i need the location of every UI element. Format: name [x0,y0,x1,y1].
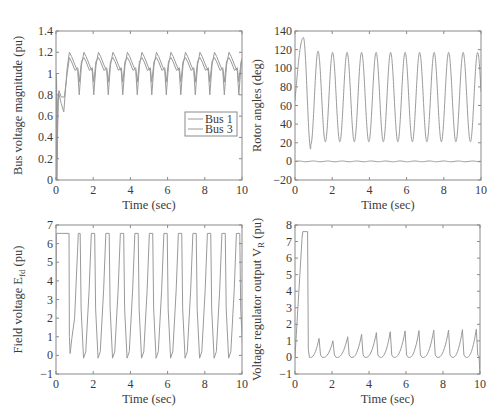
x-tick-label: 10 [236,377,248,391]
y-tick-label: 1 [47,67,53,81]
y-tick-label: 0.4 [38,130,53,144]
x-tick-label: 2 [329,183,335,197]
y-tick-label: 5 [47,255,53,269]
plot-area [295,38,481,162]
x-tick-label: 2 [329,377,335,391]
y-tick-label: 3 [47,293,53,307]
y-tick-label: 0.8 [38,88,53,102]
y-tick-label: 3 [286,301,292,315]
y-axis-label: Bus voltage magnitude (pu) [11,36,25,175]
x-tick-label: 0 [53,183,59,197]
x-tick-label: 8 [441,183,447,197]
y-tick-label: 0 [47,173,53,187]
y-tick-label: 2 [286,317,292,331]
y-tick-label: 0.2 [38,152,53,166]
y-tick-label: 120 [274,43,292,57]
subplot-field-voltage: 0246810−101234567Time (sec)Field voltage… [11,218,254,406]
x-tick-label: 10 [236,183,248,197]
x-tick-label: 6 [165,183,171,197]
x-tick-label: 0 [292,183,298,197]
y-tick-label: 2 [47,311,53,325]
plot-area [56,233,254,358]
field-voltage-trace [56,233,254,358]
subplot-rotor-angles: 0246810−20020406080100120140Time (sec)Ro… [250,24,487,212]
y-tick-label: 4 [286,284,292,298]
y-tick-label: 80 [280,80,292,94]
subplot-regulator-output: 0246810−1012345678Time (sec)Voltage regu… [250,218,486,406]
x-tick-label: 0 [292,377,298,391]
y-tick-label: 7 [47,218,53,232]
axes-box [295,225,480,374]
y-tick-label: 8 [286,218,292,232]
x-tick-label: 6 [404,183,410,197]
x-tick-label: 2 [90,377,96,391]
regulator-output-trace [295,232,480,374]
y-tick-label: 1.2 [38,45,53,59]
y-tick-label: 1 [286,334,292,348]
x-tick-label: 4 [127,377,133,391]
x-tick-label: 10 [475,183,487,197]
x-tick-label: 6 [165,377,171,391]
x-tick-label: 8 [440,377,446,391]
y-tick-label: 6 [286,251,292,265]
y-tick-label: −1 [40,367,53,381]
y-tick-label: 6 [47,237,53,251]
y-tick-label: 0 [47,348,53,362]
subplot-bus-voltage: 024681000.20.40.60.811.21.4Time (sec)Bus… [11,24,256,212]
y-tick-label: 1 [47,330,53,344]
y-tick-label: 0 [286,350,292,364]
x-axis-label: Time (sec) [122,392,175,406]
x-axis-label: Time (sec) [361,392,414,406]
x-tick-label: 10 [474,377,486,391]
figure: 024681000.20.40.60.811.21.4Time (sec)Bus… [0,0,503,419]
y-tick-label: 60 [280,99,292,113]
y-axis-label: Rotor angles (deg) [250,59,264,152]
x-tick-label: 4 [366,183,372,197]
y-tick-label: 7 [286,235,292,249]
y-tick-label: −20 [273,173,292,187]
y-tick-label: 4 [47,274,53,288]
legend-entry: Bus 3 [205,122,233,136]
y-tick-label: 100 [274,61,292,75]
y-tick-label: 40 [280,117,292,131]
x-tick-label: 4 [366,377,372,391]
x-axis-label: Time (sec) [122,198,175,212]
y-axis-label: Voltage regulator output VR (pu) [250,218,266,381]
y-tick-label: 0.6 [38,109,53,123]
y-tick-label: 5 [286,268,292,282]
generator-angle-trace [295,38,481,150]
x-tick-label: 8 [202,183,208,197]
y-tick-label: −1 [279,367,292,381]
x-tick-label: 4 [127,183,133,197]
y-tick-label: 1.4 [38,24,53,38]
x-tick-label: 2 [90,183,96,197]
y-tick-label: 20 [280,136,292,150]
x-tick-label: 0 [53,377,59,391]
y-tick-label: 140 [274,24,292,38]
plot-area [295,232,480,374]
x-tick-label: 6 [403,377,409,391]
reference-angle-trace [295,161,480,162]
x-tick-label: 8 [202,377,208,391]
y-tick-label: 0 [286,154,292,168]
x-axis-label: Time (sec) [361,198,414,212]
legend: Bus 1Bus 3 [185,112,237,136]
y-axis-label: Field voltage Efd (pu) [11,246,27,354]
